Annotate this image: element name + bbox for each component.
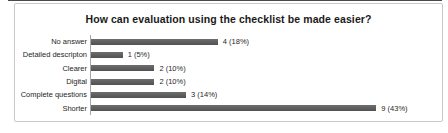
bar-area: 4 (18%): [90, 35, 440, 48]
value-label: 2 (10%): [159, 64, 185, 73]
bar-row: Complete questions 3 (14%): [17, 88, 440, 101]
value-label: 4 (18%): [223, 37, 249, 46]
bar-row: Shorter 9 (43%): [17, 101, 440, 114]
category-label: No answer: [17, 37, 90, 46]
bar-area: 2 (10%): [90, 75, 440, 88]
bar-area: 1 (5%): [90, 48, 440, 61]
bar-row: Digital 2 (10%): [17, 75, 440, 88]
value-label: 9 (43%): [381, 104, 407, 113]
bar-area: 3 (14%): [90, 88, 440, 101]
chart-frame: How can evaluation using the checklist b…: [14, 3, 443, 122]
bar: [91, 39, 218, 45]
bar-row: Detailed descripton 1 (5%): [17, 48, 440, 61]
plot-rows: No answer 4 (18%) Detailed descripton 1 …: [17, 35, 440, 115]
bar-row: Clearer 2 (10%): [17, 62, 440, 75]
bar-area: 2 (10%): [90, 62, 440, 75]
value-label: 3 (14%): [191, 90, 217, 99]
category-label: Clearer: [17, 64, 90, 73]
value-label: 2 (10%): [159, 77, 185, 86]
top-edge-line: [8, 0, 442, 1]
bar: [91, 65, 154, 71]
bar: [91, 92, 186, 98]
bar-row: No answer 4 (18%): [17, 35, 440, 48]
bar: [91, 52, 123, 58]
category-label: Detailed descripton: [17, 50, 90, 59]
bar: [91, 79, 154, 85]
category-label: Complete questions: [17, 90, 90, 99]
value-label: 1 (5%): [128, 50, 150, 59]
category-label: Shorter: [17, 104, 90, 113]
chart-title: How can evaluation using the checklist b…: [15, 13, 442, 25]
category-label: Digital: [17, 77, 90, 86]
bar: [91, 105, 376, 111]
bar-area: 9 (43%): [90, 101, 440, 114]
